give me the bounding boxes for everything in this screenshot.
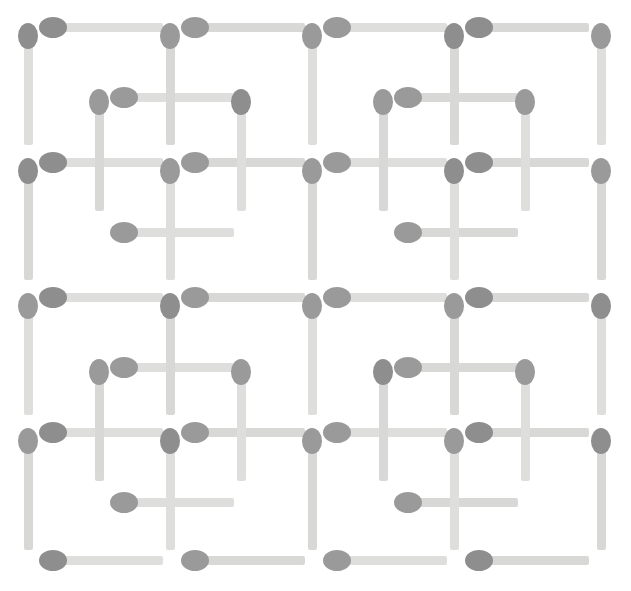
matchstick-head-icon (591, 428, 611, 454)
matchstick-head-icon (323, 287, 351, 308)
matchstick-head-icon (181, 17, 209, 38)
matchstick-vertical-1[interactable] (160, 27, 180, 145)
matchstick-vertical-8[interactable] (515, 93, 535, 211)
matchstick-horizontal-15[interactable] (471, 284, 589, 310)
matchstick-head-icon (89, 359, 109, 385)
matchstick-vertical-17[interactable] (444, 297, 464, 415)
matchstick-head-icon (302, 158, 322, 184)
matchstick-head-icon (444, 293, 464, 319)
matchstick-vertical-11[interactable] (302, 162, 322, 280)
matchstick-head-icon (39, 152, 67, 173)
matchstick-horizontal-12[interactable] (45, 284, 163, 310)
matchstick-vertical-13[interactable] (591, 162, 611, 280)
matchstick-head-icon (323, 17, 351, 38)
matchstick-vertical-10[interactable] (160, 162, 180, 280)
matchstick-head-icon (39, 422, 67, 443)
matchstick-head-icon (89, 89, 109, 115)
matchstick-head-icon (302, 23, 322, 49)
matchstick-head-icon (591, 293, 611, 319)
matchstick-vertical-3[interactable] (444, 27, 464, 145)
matchstick-horizontal-0[interactable] (45, 14, 163, 40)
matchstick-head-icon (181, 152, 209, 173)
matchstick-horizontal-1[interactable] (187, 14, 305, 40)
matchstick-head-icon (323, 550, 351, 571)
matchstick-head-icon (444, 23, 464, 49)
matchstick-horizontal-26[interactable] (329, 547, 447, 573)
matchstick-head-icon (394, 492, 422, 513)
matchstick-vertical-21[interactable] (373, 363, 393, 481)
matchstick-head-icon (465, 152, 493, 173)
matchstick-vertical-2[interactable] (302, 27, 322, 145)
matchstick-vertical-6[interactable] (231, 93, 251, 211)
matchstick-layer (0, 0, 631, 591)
matchstick-head-icon (465, 550, 493, 571)
matchstick-head-icon (39, 17, 67, 38)
matchstick-head-icon (160, 23, 180, 49)
matchstick-puzzle-canvas (0, 0, 631, 591)
matchstick-vertical-23[interactable] (18, 432, 38, 550)
matchstick-head-icon (444, 428, 464, 454)
matchstick-head-icon (39, 550, 67, 571)
matchstick-vertical-4[interactable] (591, 27, 611, 145)
matchstick-vertical-0[interactable] (18, 27, 38, 145)
matchstick-vertical-18[interactable] (591, 297, 611, 415)
matchstick-head-icon (110, 87, 138, 108)
matchstick-head-icon (110, 222, 138, 243)
matchstick-head-icon (373, 89, 393, 115)
matchstick-horizontal-14[interactable] (329, 284, 447, 310)
matchstick-vertical-7[interactable] (373, 93, 393, 211)
matchstick-horizontal-24[interactable] (45, 547, 163, 573)
matchstick-vertical-16[interactable] (302, 297, 322, 415)
matchstick-head-icon (591, 23, 611, 49)
matchstick-head-icon (110, 357, 138, 378)
matchstick-head-icon (18, 293, 38, 319)
matchstick-head-icon (181, 422, 209, 443)
matchstick-head-icon (302, 293, 322, 319)
matchstick-horizontal-2[interactable] (329, 14, 447, 40)
matchstick-head-icon (465, 287, 493, 308)
matchstick-vertical-14[interactable] (18, 297, 38, 415)
matchstick-head-icon (515, 89, 535, 115)
matchstick-head-icon (515, 359, 535, 385)
matchstick-vertical-25[interactable] (302, 432, 322, 550)
matchstick-head-icon (323, 152, 351, 173)
matchstick-vertical-15[interactable] (160, 297, 180, 415)
matchstick-head-icon (181, 287, 209, 308)
matchstick-vertical-5[interactable] (89, 93, 109, 211)
matchstick-horizontal-13[interactable] (187, 284, 305, 310)
matchstick-head-icon (181, 550, 209, 571)
matchstick-vertical-9[interactable] (18, 162, 38, 280)
matchstick-head-icon (373, 359, 393, 385)
matchstick-head-icon (231, 89, 251, 115)
matchstick-head-icon (18, 23, 38, 49)
matchstick-head-icon (110, 492, 138, 513)
matchstick-horizontal-3[interactable] (471, 14, 589, 40)
matchstick-head-icon (160, 158, 180, 184)
matchstick-head-icon (465, 17, 493, 38)
matchstick-vertical-22[interactable] (515, 363, 535, 481)
matchstick-head-icon (160, 293, 180, 319)
matchstick-head-icon (444, 158, 464, 184)
matchstick-head-icon (302, 428, 322, 454)
matchstick-head-icon (394, 87, 422, 108)
matchstick-head-icon (394, 222, 422, 243)
matchstick-horizontal-27[interactable] (471, 547, 589, 573)
matchstick-vertical-24[interactable] (160, 432, 180, 550)
matchstick-horizontal-25[interactable] (187, 547, 305, 573)
matchstick-head-icon (591, 158, 611, 184)
matchstick-vertical-20[interactable] (231, 363, 251, 481)
matchstick-head-icon (465, 422, 493, 443)
matchstick-head-icon (394, 357, 422, 378)
matchstick-vertical-27[interactable] (591, 432, 611, 550)
matchstick-head-icon (231, 359, 251, 385)
matchstick-head-icon (18, 158, 38, 184)
matchstick-head-icon (323, 422, 351, 443)
matchstick-vertical-26[interactable] (444, 432, 464, 550)
matchstick-head-icon (160, 428, 180, 454)
matchstick-vertical-12[interactable] (444, 162, 464, 280)
matchstick-head-icon (39, 287, 67, 308)
matchstick-head-icon (18, 428, 38, 454)
matchstick-vertical-19[interactable] (89, 363, 109, 481)
